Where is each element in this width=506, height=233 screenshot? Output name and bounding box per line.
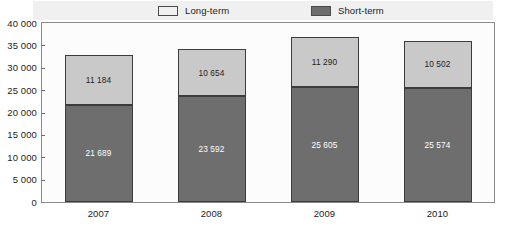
bar-value-label-long-term: 10 502: [405, 59, 471, 69]
y-axis-tick-label: 20 000: [7, 107, 37, 118]
y-axis-tick-label: 30 000: [7, 62, 37, 73]
bar-segment-long-term[interactable]: 10 654: [178, 49, 246, 97]
legend-entry-short-term: Short-term: [311, 3, 384, 18]
y-axis-tick-label: 15 000: [7, 129, 37, 140]
stacked-bar-chart: Long-term Short-term 40 00035 00030 0002…: [0, 0, 506, 233]
bar-group-2010[interactable]: 25 57410 502: [404, 41, 472, 202]
bar-segment-long-term[interactable]: 11 290: [291, 37, 359, 88]
bar-value-label-long-term: 11 184: [66, 75, 132, 85]
bar-value-label-short-term: 25 574: [405, 140, 471, 150]
y-axis-tick-label: 40 000: [7, 18, 37, 29]
y-axis-tick-label: 35 000: [7, 40, 37, 51]
legend-label-long-term: Long-term: [185, 5, 229, 16]
x-axis-tick-label: 2008: [182, 208, 242, 219]
y-axis: 40 00035 00030 00025 00020 00015 00010 0…: [0, 22, 37, 203]
chart-legend: Long-term Short-term: [33, 1, 493, 20]
y-axis-tick-label: 5 000: [13, 174, 37, 185]
bar-segment-long-term[interactable]: 11 184: [65, 55, 133, 105]
bar-value-label-long-term: 11 290: [292, 57, 358, 67]
legend-label-short-term: Short-term: [338, 5, 384, 16]
bar-segment-short-term[interactable]: 21 689: [65, 105, 133, 202]
bar-value-label-short-term: 23 592: [179, 144, 245, 154]
y-axis-tick-label: 10 000: [7, 152, 37, 163]
y-axis-tick-label: 0: [32, 197, 37, 208]
legend-entry-long-term: Long-term: [158, 3, 229, 18]
x-axis-tick-label: 2009: [295, 208, 355, 219]
bars-container: 21 68911 18423 59210 65425 60511 29025 5…: [42, 23, 494, 202]
x-axis-tick-label: 2007: [69, 208, 129, 219]
bar-segment-long-term[interactable]: 10 502: [404, 41, 472, 88]
bar-group-2007[interactable]: 21 68911 184: [65, 55, 133, 202]
bar-value-label-short-term: 21 689: [66, 148, 132, 158]
x-axis-tick-label: 2010: [408, 208, 468, 219]
bar-segment-short-term[interactable]: 25 574: [404, 88, 472, 202]
bar-segment-short-term[interactable]: 23 592: [178, 96, 246, 202]
y-axis-tick-label: 25 000: [7, 85, 37, 96]
bar-value-label-short-term: 25 605: [292, 140, 358, 150]
legend-swatch-long-term-icon: [158, 6, 178, 16]
x-axis: 2007200820092010: [42, 208, 494, 222]
bar-group-2009[interactable]: 25 60511 290: [291, 37, 359, 202]
legend-swatch-short-term-icon: [311, 6, 331, 16]
bar-value-label-long-term: 10 654: [179, 68, 245, 78]
bar-segment-short-term[interactable]: 25 605: [291, 87, 359, 202]
bar-group-2008[interactable]: 23 59210 654: [178, 49, 246, 202]
